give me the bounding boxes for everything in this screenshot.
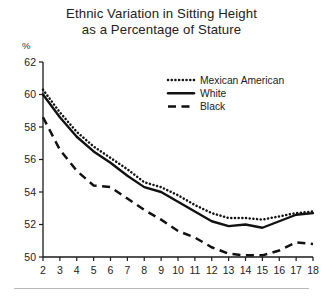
x-axis-tick-label: 16 — [273, 264, 285, 276]
x-axis-tick-label: 18 — [307, 264, 319, 276]
x-axis-tick-label: 9 — [158, 264, 164, 276]
x-axis-tick-label: 4 — [74, 264, 80, 276]
x-axis-tick-label: 6 — [108, 264, 114, 276]
y-axis-tick-label: 62 — [24, 56, 36, 68]
x-axis-tick-label: 15 — [257, 264, 269, 276]
legend-label: Mexican American — [200, 75, 284, 86]
x-axis-tick-label: 12 — [206, 264, 218, 276]
x-axis-tick-label: 3 — [57, 264, 63, 276]
x-axis-tick-label: 14 — [240, 264, 252, 276]
x-axis-tick-label: 2 — [40, 264, 46, 276]
y-axis-tick-label: 60 — [24, 88, 36, 100]
y-axis-tick-label: 52 — [24, 218, 36, 230]
legend-label: Black — [200, 101, 226, 112]
chart-plot-area: 5052545658606223456789101112131415161718… — [0, 0, 323, 296]
y-axis-tick-label: 56 — [24, 153, 36, 165]
x-axis-tick-label: 5 — [91, 264, 97, 276]
y-axis-tick-label: 58 — [24, 121, 36, 133]
series-line-white — [43, 95, 313, 228]
y-axis-tick-label: 50 — [24, 251, 36, 263]
x-axis-tick-label: 8 — [141, 264, 147, 276]
chart-figure: Ethnic Variation in Sitting Height as a … — [0, 0, 323, 296]
legend-label: White — [200, 88, 227, 99]
x-axis-tick-label: 13 — [223, 264, 235, 276]
x-axis-tick-label: 11 — [189, 264, 200, 276]
y-axis-tick-label: 54 — [24, 186, 36, 198]
x-axis-tick-label: 10 — [172, 264, 184, 276]
series-line-mexican-american — [43, 90, 313, 220]
footer-divider — [14, 288, 309, 289]
x-axis-tick-label: 17 — [290, 264, 302, 276]
x-axis-tick-label: 7 — [124, 264, 130, 276]
